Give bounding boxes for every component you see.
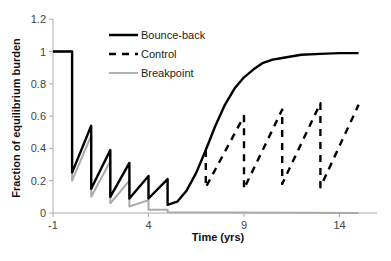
x-axis-ticks: -14914: [48, 213, 346, 231]
y-tick-label: 0: [40, 207, 46, 219]
series-control-line: [206, 103, 359, 189]
y-tick-label: 0.2: [31, 175, 46, 187]
y-axis-label: Fraction of equilibrium burden: [10, 38, 22, 198]
x-tick-label: 9: [241, 219, 247, 231]
y-tick-label: 0.4: [31, 142, 46, 154]
x-tick-label: -1: [48, 219, 58, 231]
chart-axes: 00.20.40.60.811.2 -14914: [31, 13, 377, 231]
series-breakpoint-line: [53, 52, 359, 214]
legend-label-control: Control: [141, 48, 176, 60]
legend-label-breakpoint: Breakpoint: [141, 67, 194, 79]
legend-label-bounce-back: Bounce-back: [141, 29, 206, 41]
y-tick-label: 0.8: [31, 78, 46, 90]
x-tick-label: 14: [333, 219, 345, 231]
chart-legend: Bounce-back Control Breakpoint: [109, 29, 206, 79]
x-axis-label: Time (yrs): [192, 231, 245, 243]
y-tick-label: 1.2: [31, 13, 46, 25]
chart-series: [53, 52, 359, 214]
y-axis-ticks: 00.20.40.60.811.2: [31, 13, 53, 219]
y-tick-label: 0.6: [31, 110, 46, 122]
line-chart: 00.20.40.60.811.2 -14914 Bounce-back Con…: [0, 0, 391, 261]
x-tick-label: 4: [145, 219, 151, 231]
y-tick-label: 1: [40, 46, 46, 58]
